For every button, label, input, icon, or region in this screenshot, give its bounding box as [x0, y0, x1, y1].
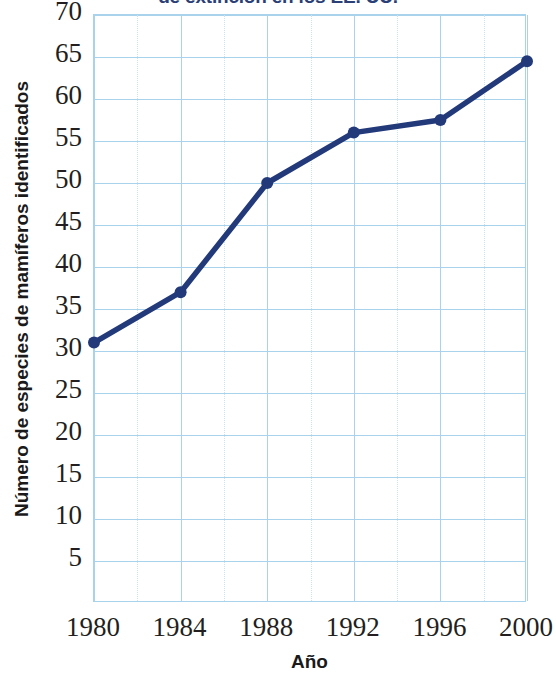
y-tick-label: 15	[0, 458, 82, 489]
gridline-vertical-major	[527, 15, 528, 601]
data-series-line: 1980: 311984: 371988: 501992: 561996: 57…	[94, 15, 527, 603]
y-tick-label: 25	[0, 374, 82, 405]
x-tick-label: 1988	[221, 612, 311, 643]
y-tick-label: 35	[0, 290, 82, 321]
data-point-marker: 1992: 56	[348, 127, 360, 139]
y-tick-label: 55	[0, 122, 82, 153]
y-tick-label: 20	[0, 416, 82, 447]
y-tick-label: 65	[0, 38, 82, 69]
x-tick-label: 1984	[135, 612, 225, 643]
data-point-marker: 1980: 31	[88, 337, 100, 349]
y-tick-label: 45	[0, 206, 82, 237]
y-tick-label: 30	[0, 332, 82, 363]
plot-area: 1980: 311984: 371988: 501992: 561996: 57…	[93, 14, 526, 602]
x-tick-label: 1996	[394, 612, 484, 643]
x-axis-title: Año	[93, 651, 526, 673]
data-point-marker: 1996: 57.5	[434, 114, 446, 126]
y-tick-label: 10	[0, 500, 82, 531]
data-point-marker: 1984: 37	[175, 286, 187, 298]
y-tick-label: 70	[0, 0, 82, 27]
y-tick-label: 60	[0, 80, 82, 111]
x-tick-label: 1992	[308, 612, 398, 643]
y-tick-label: 5	[0, 542, 82, 573]
chart-title: de extinción en los EE. UU.	[0, 0, 556, 8]
x-tick-label: 1980	[48, 612, 138, 643]
series-line	[94, 61, 527, 342]
x-tick-label: 2000	[481, 612, 556, 643]
chart-figure: de extinción en los EE. UU. Número de es…	[0, 0, 556, 677]
y-tick-label: 40	[0, 248, 82, 279]
data-point-marker: 2000: 64.5	[521, 55, 533, 67]
y-tick-label: 50	[0, 164, 82, 195]
data-point-marker: 1988: 50	[261, 177, 273, 189]
